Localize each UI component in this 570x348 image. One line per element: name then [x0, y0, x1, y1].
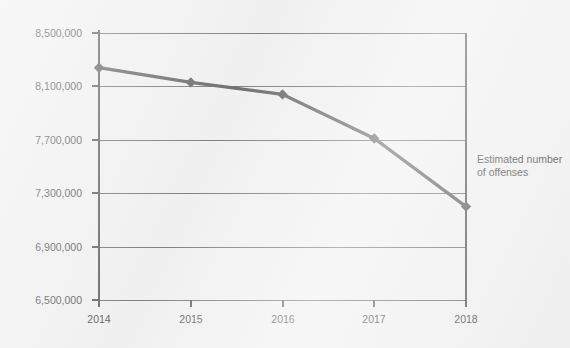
x-axis-labels: 2014 2015 2016 2017 2018 — [87, 313, 478, 325]
series-line-estimated-offenses — [99, 68, 466, 207]
y-axis-label-1: 8,100,000 — [35, 80, 82, 92]
annotation-line-2: of offenses — [477, 166, 569, 179]
x-axis-label-2014: 2014 — [87, 313, 111, 325]
series-annotation-label: Estimated number of offenses — [477, 153, 569, 179]
y-axis-label-0: 8,500,000 — [35, 27, 82, 39]
y-axis-label-2: 7,700,000 — [35, 134, 82, 146]
y-axis-label-3: 7,300,000 — [35, 187, 82, 199]
y-axis-label-5: 6,500,000 — [35, 294, 82, 306]
line-chart: 8,500,000 8,100,000 7,700,000 7,300,000 … — [0, 0, 570, 348]
x-axis-label-2016: 2016 — [271, 313, 295, 325]
x-axis-ticks — [99, 300, 466, 307]
series-markers — [94, 63, 471, 212]
x-axis-label-2017: 2017 — [362, 313, 386, 325]
x-axis-label-2018: 2018 — [454, 313, 478, 325]
annotation-line-1: Estimated number — [477, 153, 569, 166]
data-point-2014 — [94, 63, 104, 73]
y-axis-labels: 8,500,000 8,100,000 7,700,000 7,300,000 … — [35, 27, 82, 306]
data-point-2016 — [277, 89, 287, 99]
x-axis-label-2015: 2015 — [179, 313, 203, 325]
y-axis-ticks — [92, 33, 99, 300]
y-axis-label-4: 6,900,000 — [35, 241, 82, 253]
